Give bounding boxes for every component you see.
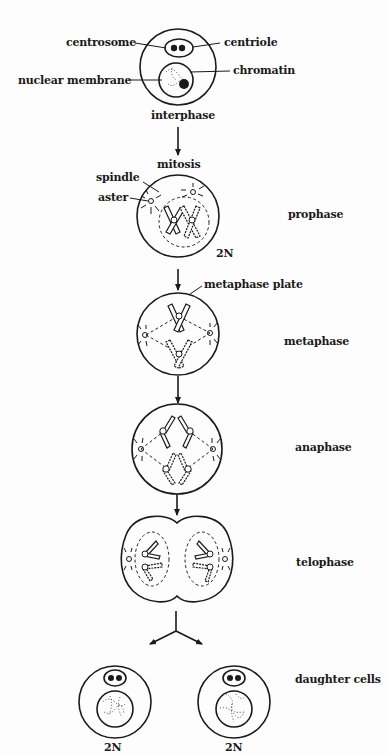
stage-label-daughter-cells: daughter cells	[295, 674, 381, 685]
label-centrosome: centrosome	[66, 37, 136, 48]
daughter-cell-right	[198, 666, 270, 738]
stage-label-metaphase: metaphase	[284, 336, 349, 347]
interphase-cell	[128, 29, 230, 105]
stage-label-anaphase: anaphase	[295, 442, 352, 453]
metaphase-cell	[137, 293, 219, 375]
label-metaphase-plate: metaphase plate	[204, 279, 303, 290]
anaphase-cell	[132, 404, 222, 494]
stage-label-prophase: prophase	[288, 209, 343, 220]
centriole-dot	[179, 45, 185, 51]
centriole-dot	[171, 45, 177, 51]
label-nuclear-membrane: nuclear membrane	[18, 75, 131, 86]
prophase-cell	[130, 175, 219, 257]
label-spindle: spindle	[96, 172, 140, 183]
label-mitosis: mitosis	[157, 159, 200, 170]
division-fork-arrow	[150, 611, 202, 644]
label-daughter-left-2n: 2N	[104, 742, 121, 753]
label-chromatin: chromatin	[233, 65, 295, 76]
label-daughter-right-2n: 2N	[225, 742, 242, 753]
nucleolus	[179, 79, 189, 89]
label-prophase-2n: 2N	[216, 248, 233, 259]
label-centriole: centriole	[224, 37, 277, 48]
label-aster: aster	[98, 192, 128, 203]
stage-label-telophase: telophase	[296, 557, 354, 568]
label-interphase: interphase	[151, 110, 215, 121]
telophase-cell	[121, 516, 232, 602]
daughter-cell-left	[79, 666, 151, 738]
mitosis-diagram: centrosome centriole chromatin nuclear m…	[0, 0, 389, 755]
nucleus-shape	[159, 63, 193, 97]
